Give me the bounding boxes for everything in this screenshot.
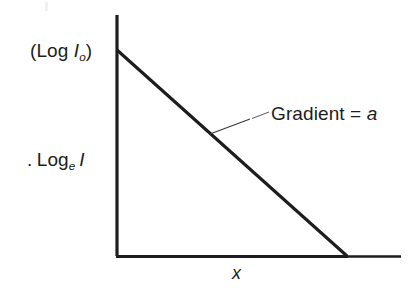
gradient-leader-line	[210, 119, 250, 134]
gradient-annotation-symbol: a	[367, 103, 378, 124]
gradient-annotation: Gradient = a	[271, 104, 377, 123]
y-axis-subscript: e	[69, 159, 76, 172]
y-axis-base-text: Log	[37, 149, 69, 170]
y-axis-label: .LogeI	[27, 150, 85, 172]
figure-panel: (Log Io) .LogeI Gradient = a x	[0, 0, 418, 306]
x-axis-label: x	[232, 264, 241, 282]
gradient-annotation-text: Gradient =	[271, 103, 367, 124]
y-intercept-prefix: (Log	[30, 40, 74, 61]
y-intercept-label: (Log Io)	[30, 41, 92, 63]
data-line-loge-i	[117, 50, 347, 256]
scan-artifact-speck	[45, 2, 48, 11]
y-axis-variable: I	[79, 149, 84, 170]
gradient-leader-line-dash	[252, 112, 269, 118]
y-intercept-suffix: )	[86, 40, 92, 61]
y-axis-leading-dot: .	[27, 149, 33, 170]
